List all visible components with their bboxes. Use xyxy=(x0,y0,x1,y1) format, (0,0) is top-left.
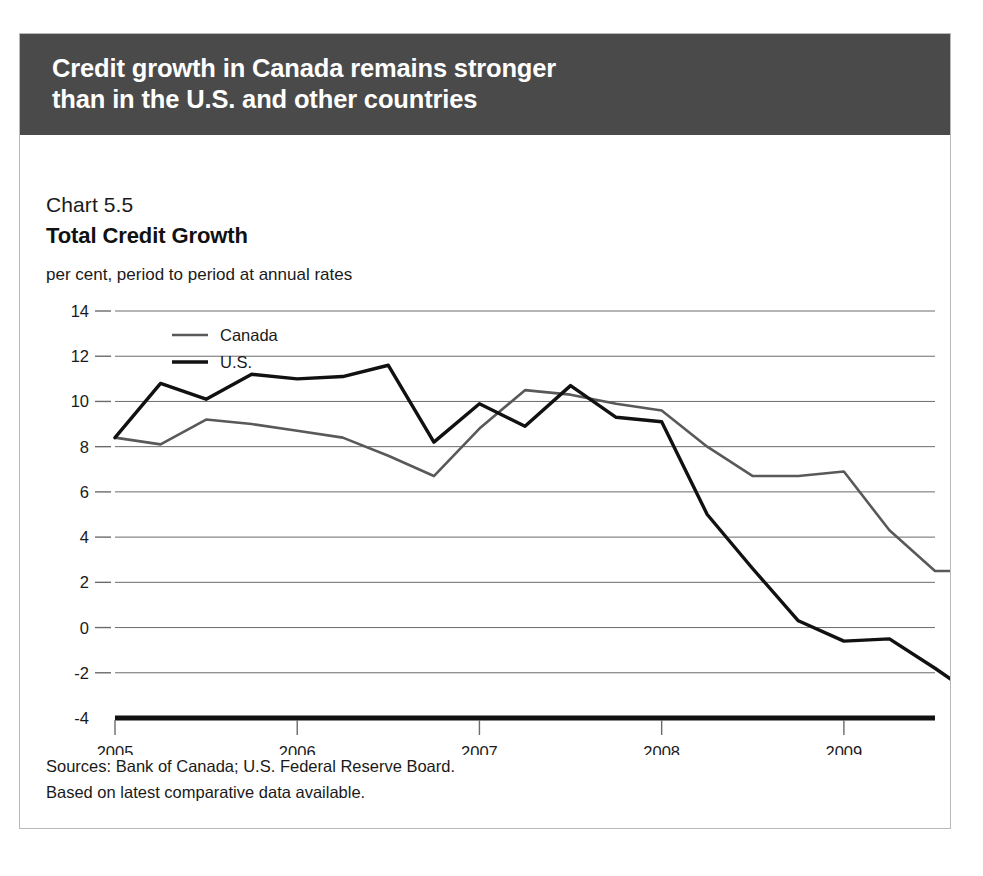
y-axis-tick-label: -2 xyxy=(74,664,89,682)
y-axis-tick-label: 12 xyxy=(71,347,89,365)
banner-text: Credit growth in Canada remains stronger… xyxy=(52,53,872,115)
series-line-us xyxy=(115,365,950,700)
sources-note: Sources: Bank of Canada; U.S. Federal Re… xyxy=(46,753,455,779)
chart-area: Chart 5.5 Total Credit Growth per cent, … xyxy=(20,135,950,828)
chart-page: Credit growth in Canada remains stronger… xyxy=(0,0,983,876)
chart-notes: Sources: Bank of Canada; U.S. Federal Re… xyxy=(46,753,455,805)
x-axis-tick-label-year: 2007 xyxy=(461,743,498,755)
legend-label-canada: Canada xyxy=(220,326,279,344)
availability-note: Based on latest comparative data availab… xyxy=(46,779,455,805)
x-axis-tick-label-year: 2009 xyxy=(826,743,863,755)
y-axis-tick-label: 10 xyxy=(71,392,89,410)
line-chart-plot: 14121086420-2-42005Q12006Q12007Q12008Q12… xyxy=(20,135,950,755)
y-axis-tick-label: -4 xyxy=(74,709,89,727)
y-axis-tick-label: 2 xyxy=(80,573,89,591)
series-line-canada xyxy=(115,390,950,571)
y-axis-tick-label: 6 xyxy=(80,483,89,501)
banner-headline: Credit growth in Canada remains stronger… xyxy=(20,34,950,135)
banner-line-1: Credit growth in Canada remains stronger xyxy=(52,53,872,84)
x-axis-tick-label-year: 2008 xyxy=(643,743,680,755)
y-axis-tick-label: 0 xyxy=(80,619,89,637)
chart-card: Credit growth in Canada remains stronger… xyxy=(19,33,951,829)
legend-label-us: U.S. xyxy=(220,353,252,371)
y-axis-tick-label: 14 xyxy=(71,302,89,320)
y-axis-tick-label: 8 xyxy=(80,438,89,456)
y-axis-tick-label: 4 xyxy=(80,528,89,546)
banner-line-2: than in the U.S. and other countries xyxy=(52,84,872,115)
